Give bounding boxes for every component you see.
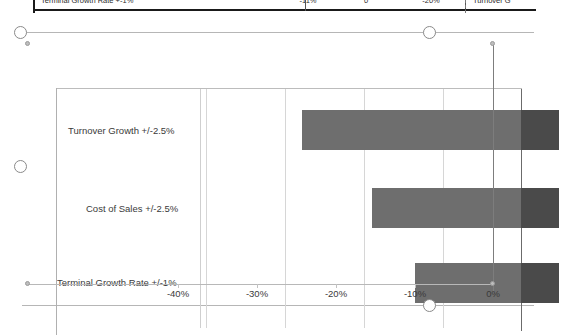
selection-outline-top (22, 32, 534, 33)
bar-segment-high-terminal-growth-rate[interactable] (521, 263, 559, 303)
plot-handle-top-right[interactable] (490, 41, 495, 46)
cell-row-label: Terminal Growth Rate +-1% (41, 0, 231, 11)
plot-area-top-border (56, 88, 522, 89)
cell-value-1: -11% (288, 0, 328, 11)
selection-handle-middle-left[interactable] (14, 160, 27, 173)
plot-area-left-border (56, 88, 57, 335)
spreadsheet-row[interactable]: Terminal Growth Rate +-1% -11% 0 -20% Tu… (33, 0, 536, 11)
category-axis-line[interactable] (28, 284, 494, 285)
bar-segment-low-turnover-growth[interactable] (302, 110, 521, 150)
cell-value-2: 0 (351, 0, 381, 11)
bar-segment-high-cost-of-sales[interactable] (521, 188, 559, 228)
cell-value-4: Turnover G (473, 0, 536, 11)
category-label-cost-of-sales: Cost of Sales +/-2.5% (86, 203, 178, 215)
category-label-turnover-growth: Turnover Growth +/-2.5% (68, 125, 175, 137)
bar-segment-high-turnover-growth[interactable] (521, 110, 559, 150)
axis-tick-label-minus-10: -10% (395, 288, 435, 299)
tornado-chart[interactable]: Turnover Growth +/-2.5% Cost of Sales +/… (28, 44, 530, 291)
axis-tick-label-minus-30: -30% (237, 288, 277, 299)
column-guide-dashed-line (465, 0, 466, 15)
plot-handle-top-left[interactable] (25, 41, 30, 46)
axis-tick-label-minus-40: -40% (158, 288, 198, 299)
plot-handle-bottom-right[interactable] (490, 281, 495, 286)
selection-outline-bottom (22, 305, 534, 306)
bar-segment-low-cost-of-sales[interactable] (372, 188, 521, 228)
plot-handle-bottom-left[interactable] (25, 281, 30, 286)
axis-tick-label-zero: 0% (473, 288, 513, 299)
axis-tick-label-minus-20: -20% (316, 288, 356, 299)
selection-handle-top-left[interactable] (14, 26, 27, 39)
selection-handle-top-middle[interactable] (423, 26, 436, 39)
value-axis-line (493, 44, 494, 291)
cell-value-3: -20% (408, 0, 454, 11)
cell-divider-1 (305, 0, 306, 11)
clipped-spreadsheet-strip: Terminal Growth Rate +-1% -11% 0 -20% Tu… (0, 0, 536, 15)
selection-handle-bottom-middle[interactable] (423, 299, 436, 312)
